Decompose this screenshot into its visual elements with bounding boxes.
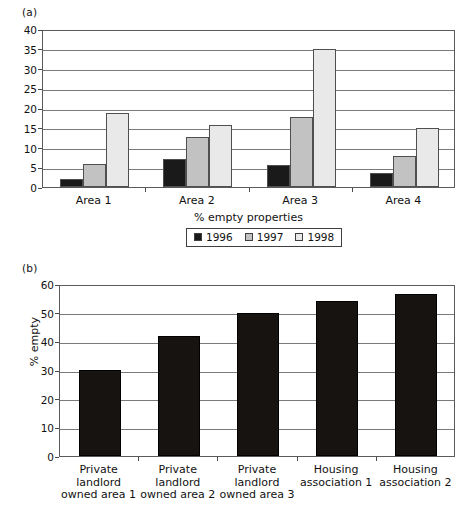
chart-b-y-tick-mark [55,399,59,400]
chart-a-legend-swatch-1997 [245,233,253,241]
chart-a-y-tick-mark [38,30,42,31]
chart-b-y-tick-label: 20 [24,395,54,406]
chart-a-bar [60,179,83,187]
chart-a-bar [393,156,416,187]
chart-a-y-tick-mark [38,128,42,129]
chart-a-y-tick-label: 35 [7,45,37,56]
chart-b-bar [79,370,121,456]
chart-a-x-axis-title: % empty properties [42,211,455,224]
chart-a-legend-label-1998: 1998 [307,231,334,243]
chart-a-bar [163,159,186,187]
chart-a-y-tick-label: 10 [7,144,37,155]
chart-a-plot-area [42,30,455,188]
chart-b-y-tick-mark [55,457,59,458]
chart-b-y-tick-label: 0 [24,452,54,463]
chart-a-legend-swatch-1998 [295,233,303,241]
chart-a-bar [313,49,336,187]
chart-a-y-tick-label: 5 [7,163,37,174]
panel-a-label: (a) [22,6,37,18]
chart-b-y-tick-mark [55,313,59,314]
chart-b-y-tick-mark [55,428,59,429]
chart-a-legend: 199619971998 [186,228,342,247]
chart-a-gridline [43,110,454,111]
chart-b-y-tick-label: 30 [24,366,54,377]
chart-a-y-tick-label: 0 [7,183,37,194]
chart-b-y-tick-mark [55,371,59,372]
chart-a-category-label: Area 1 [42,195,145,208]
chart-a-y-tick-label: 20 [7,104,37,115]
chart-a-y-tick-mark [38,49,42,50]
chart-b-plot-area [59,285,455,457]
chart-a-category-label: Area 3 [249,195,352,208]
chart-a-category-label: Area 2 [145,195,248,208]
chart-a-x-tick-mark [352,188,353,192]
chart-b-x-tick-mark [217,457,218,461]
chart-a-y-tick-label: 40 [7,25,37,36]
chart-b-bar [395,294,437,456]
chart-b-category-label: Private landlord owned area 2 [134,464,221,502]
chart-b-y-tick-mark [55,285,59,286]
chart-a-y-tick-mark [38,148,42,149]
chart-a-legend-item-1998: 1998 [295,231,334,243]
chart-b-x-tick-mark [376,457,377,461]
chart-a-y-tick-mark [38,188,42,189]
chart-b-y-tick-mark [55,342,59,343]
chart-a-bar [416,128,439,187]
chart-a-gridline [43,70,454,71]
chart-a-gridline [43,149,454,150]
chart-a-legend-item-1996: 1996 [194,231,233,243]
figure-container: (a) % empty properties 199619971998 (b) … [0,0,470,513]
chart-a-bar [186,137,209,187]
chart-b-y-tick-label: 50 [24,309,54,320]
chart-b-category-label: Housing association 2 [372,464,459,489]
chart-b-y-tick-label: 10 [24,423,54,434]
chart-a-y-tick-label: 15 [7,124,37,135]
chart-a-y-tick-mark [38,69,42,70]
panel-b-label: (b) [22,262,37,274]
chart-a-bar [290,117,313,187]
chart-a-legend-swatch-1996 [194,233,202,241]
chart-a-bar [267,165,290,188]
chart-a-gridline [43,90,454,91]
chart-b-bar [316,301,358,456]
chart-a-y-tick-mark [38,89,42,90]
chart-b-category-label: Private landlord owned area 3 [213,464,300,502]
chart-a-x-tick-mark [249,188,250,192]
chart-a-gridline [43,129,454,130]
chart-a-y-tick-label: 25 [7,84,37,95]
chart-a-legend-label-1997: 1997 [257,231,284,243]
chart-a-bar [370,173,393,187]
chart-a-y-tick-label: 30 [7,65,37,76]
chart-b-category-label: Private landlord owned area 1 [55,464,142,502]
chart-a-y-tick-mark [38,109,42,110]
chart-a-y-tick-mark [38,168,42,169]
chart-b-y-tick-label: 40 [24,337,54,348]
chart-b-bar [237,313,279,456]
chart-a-x-tick-mark [145,188,146,192]
chart-a-legend-label-1996: 1996 [206,231,233,243]
chart-b-category-label: Housing association 1 [293,464,380,489]
chart-b-bar [158,336,200,456]
chart-a-bar [209,125,232,187]
chart-a-gridline [43,50,454,51]
chart-b-x-tick-mark [297,457,298,461]
chart-a-legend-item-1997: 1997 [245,231,284,243]
chart-a-bar [106,113,129,187]
chart-b-y-tick-label: 60 [24,280,54,291]
chart-a-bar [83,164,106,187]
chart-a-category-label: Area 4 [352,195,455,208]
chart-b-x-tick-mark [138,457,139,461]
